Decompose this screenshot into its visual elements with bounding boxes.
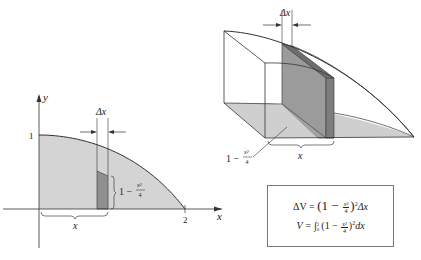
arrow-right-icon (91, 130, 97, 134)
frac-num: x² (343, 201, 349, 208)
integral-limits: 20 (317, 222, 320, 232)
v-lhs: V = (296, 220, 314, 231)
paren-open: (1 − (321, 220, 340, 231)
dx-term: dx (355, 220, 364, 231)
height-frac-num-3d: x² (243, 149, 249, 155)
paren-open: (1 − (317, 198, 342, 213)
x-tick-2-label: 2 (183, 215, 188, 225)
height-label-prefix: 1 − (119, 186, 133, 197)
height-frac-den-3d: 4 (246, 159, 249, 165)
delta-x-term: Δx (358, 201, 368, 212)
delta-volume-formula: ΔV = (1 − x²4)2Δx (268, 198, 393, 214)
solid-figure (224, 10, 414, 157)
delta-x-strip (97, 171, 108, 209)
delta-x-label: Δx (95, 106, 107, 117)
slab-edge-face (326, 78, 334, 138)
height-frac-den: 4 (139, 192, 142, 198)
base-brace (41, 212, 108, 219)
frac-den: 4 (341, 228, 347, 234)
delta-x-label-3d: Δx (279, 7, 291, 18)
y-axis-arrow-icon (37, 94, 42, 102)
height-label-prefix-3d: 1 − (226, 153, 240, 164)
base-x-label-3d: x (297, 150, 303, 161)
volume-integral-formula: V = ∫20(1 − x²4)2dx (268, 220, 393, 234)
y-axis-label: y (42, 91, 48, 103)
fraction: x²4 (343, 201, 349, 214)
volume-formula-box: ΔV = (1 − x²4)2Δx V = ∫20(1 − x²4)2dx (267, 185, 394, 247)
fraction: x²4 (341, 221, 347, 234)
base-x-label: x (72, 220, 78, 231)
shaded-region (39, 135, 185, 209)
delta-v-lhs: ΔV = (293, 201, 317, 212)
frac-den: 4 (343, 208, 349, 214)
base-brace-3d (268, 141, 334, 148)
x-axis-label: x (216, 210, 222, 222)
y-tick-1-label: 1 (29, 131, 34, 141)
plane-region-figure (3, 94, 222, 248)
arrow-left-icon (292, 23, 298, 27)
lower-limit: 0 (317, 227, 320, 232)
arrow-left-icon (108, 130, 114, 134)
frac-num: x² (341, 221, 347, 228)
height-frac-num: x² (136, 182, 142, 188)
arrow-right-icon (276, 23, 282, 27)
